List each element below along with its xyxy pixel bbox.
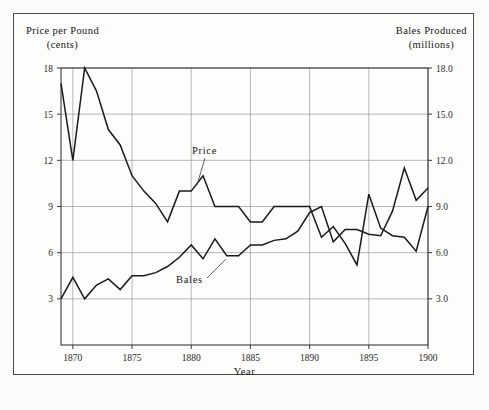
left-tick-label: 15 — [44, 110, 54, 120]
series-lines — [61, 68, 428, 299]
x-tick-label: 1875 — [123, 353, 142, 363]
x-tick-label: 1885 — [241, 353, 260, 363]
left-tick-label: 12 — [44, 156, 54, 166]
price-leader-line — [197, 158, 205, 185]
price-series-label: Price — [192, 145, 217, 156]
chart-figure: Price per Pound (cents) Bales Produced (… — [0, 0, 489, 410]
x-tick-labels: 1870187518801885189018951900 — [63, 353, 437, 363]
bales-series-label: Bales — [176, 274, 203, 285]
x-tick-label: 1870 — [63, 353, 82, 363]
left-tick-label: 9 — [48, 202, 53, 212]
x-tick-label: 1900 — [419, 353, 438, 363]
x-axis-title: Year — [0, 366, 489, 377]
x-tick-label: 1895 — [359, 353, 378, 363]
plot-area: 181512963 18.015.012.09.06.03.0 18701875… — [0, 0, 489, 410]
right-tick-label: 18.0 — [436, 64, 453, 74]
right-tick-label: 6.0 — [436, 248, 448, 258]
left-tick-label: 6 — [48, 248, 53, 258]
right-tick-label: 15.0 — [436, 110, 453, 120]
right-tick-label: 9.0 — [436, 202, 448, 212]
right-tick-labels: 18.015.012.09.06.03.0 — [436, 64, 453, 305]
right-tick-label: 3.0 — [436, 294, 448, 304]
left-tick-label: 3 — [48, 294, 53, 304]
left-tick-labels: 181512963 — [44, 64, 54, 305]
left-tick-label: 18 — [44, 64, 54, 74]
x-tick-label: 1880 — [182, 353, 201, 363]
tick-marks — [57, 68, 432, 349]
x-tick-label: 1890 — [300, 353, 319, 363]
series-annotations: PriceBales — [176, 145, 226, 285]
series-line-bales — [61, 168, 428, 299]
bales-leader-line — [207, 259, 226, 278]
right-tick-label: 12.0 — [436, 156, 453, 166]
